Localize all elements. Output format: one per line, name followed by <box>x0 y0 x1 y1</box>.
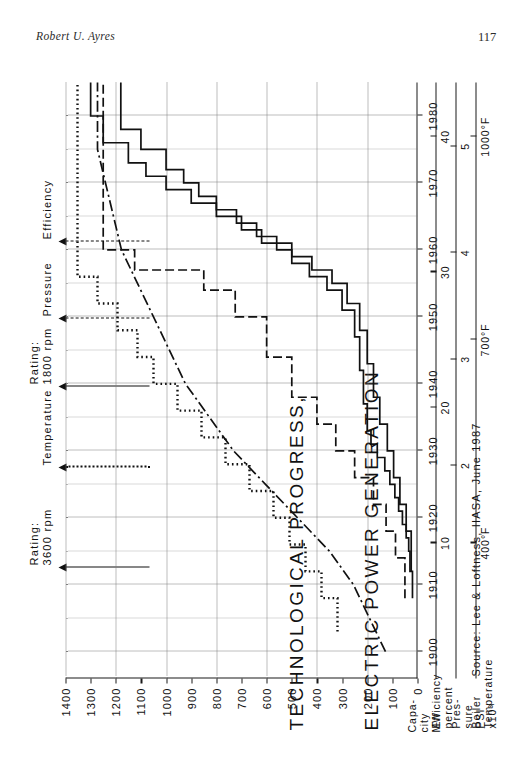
temperature-axis-line <box>476 83 477 679</box>
capacity-tick-900 <box>191 679 192 684</box>
x-tick-1930 <box>418 450 423 451</box>
x-tick-1960 <box>418 249 423 250</box>
curve-efficiency <box>98 83 386 652</box>
capacity-tick-label-1400: 1400 <box>60 688 72 717</box>
capacity-tick-label-1300: 1300 <box>85 688 97 717</box>
x-tick-1970 <box>418 182 423 183</box>
efficiency-tick-label-20: 20 <box>439 401 451 415</box>
figure-rotated-chart: TECHNOLOGICAL PROGRESS, ELECTRIC POWER G… <box>38 39 493 739</box>
x-tick-1950 <box>418 316 423 317</box>
capacity-tick-label-100: 100 <box>386 688 398 710</box>
pressure-tick-label-4: 4 <box>459 249 471 256</box>
pressure-axis-line <box>456 83 457 679</box>
efficiency-tick-label-10: 10 <box>439 536 451 550</box>
efficiency-tick-10 <box>431 542 437 543</box>
x-tick-1910 <box>418 584 423 585</box>
temperature-tick-1000°F <box>471 136 477 137</box>
temperature-tick-label-1000°F: 1000°F <box>479 117 491 157</box>
capacity-tick-300 <box>342 679 343 684</box>
pressure-tick-label-3: 3 <box>459 356 471 363</box>
capacity-tick-400 <box>317 679 318 684</box>
efficiency-tick-40 <box>431 136 437 137</box>
capacity-tick-0 <box>418 679 419 684</box>
capacity-tick-500 <box>292 679 293 684</box>
efficiency-tick-label-40: 40 <box>439 130 451 144</box>
capacity-tick-200 <box>367 679 368 684</box>
x-tick-1920 <box>418 517 423 518</box>
capacity-tick-label-700: 700 <box>236 688 248 710</box>
legend-label-5: Efficiency <box>41 180 54 240</box>
legend-label-3: Rating: 1800 rpm <box>28 328 54 385</box>
efficiency-axis-line <box>436 83 437 679</box>
legend-label-4: Pressure <box>41 262 54 316</box>
pressure-tick-5 <box>451 145 457 146</box>
capacity-tick-1100 <box>141 679 142 684</box>
capacity-tick-700 <box>242 679 243 684</box>
capacity-tick-label-1000: 1000 <box>160 688 172 717</box>
capacity-tick-label-900: 900 <box>185 688 197 710</box>
x-tick-1940 <box>418 383 423 384</box>
efficiency-tick-label-30: 30 <box>439 265 451 279</box>
capacity-tick-label-0: 0 <box>412 688 424 695</box>
efficiency-tick-30 <box>431 271 437 272</box>
capacity-tick-1300 <box>91 679 92 684</box>
pressure-tick-label-2: 2 <box>459 462 471 469</box>
x-tick-1980 <box>418 115 423 116</box>
capacity-tick-label-1100: 1100 <box>135 688 147 716</box>
capacity-tick-label-300: 300 <box>336 688 348 710</box>
capacity-axis-title: Capa- city MW <box>406 699 442 733</box>
capacity-tick-1400 <box>66 679 67 684</box>
curve-temperature <box>78 83 338 632</box>
temperature-tick-label-400°F: 400°F <box>479 526 491 559</box>
plot-area: 190019101920193019401950196019701980 010… <box>66 83 418 679</box>
capacity-tick-1000 <box>166 679 167 684</box>
capacity-tick-800 <box>216 679 217 684</box>
pressure-tick-3 <box>451 358 457 359</box>
capacity-tick-label-400: 400 <box>311 688 323 710</box>
temperature-tick-700°F <box>471 339 477 340</box>
capacity-tick-600 <box>267 679 268 684</box>
capacity-tick-label-200: 200 <box>361 688 373 710</box>
legend-label-2: Temperature <box>41 389 54 465</box>
capacity-tick-label-800: 800 <box>210 688 222 710</box>
temperature-tick-400°F <box>471 542 477 543</box>
capacity-tick-100 <box>392 679 393 684</box>
efficiency-tick-20 <box>431 406 437 407</box>
curve-rating-1800-rpm <box>91 83 412 572</box>
capacity-tick-label-1200: 1200 <box>110 688 122 717</box>
pressure-tick-4 <box>451 252 457 253</box>
pressure-tick-2 <box>451 464 457 465</box>
capacity-tick-1200 <box>116 679 117 684</box>
legend-label-1: Rating: 3600 rpm <box>28 509 54 566</box>
pressure-tick-label-5: 5 <box>459 143 471 150</box>
temperature-axis-title: Boiler Temperature <box>470 659 494 729</box>
temperature-tick-label-700°F: 700°F <box>479 323 491 356</box>
capacity-tick-label-600: 600 <box>261 688 273 710</box>
data-curves <box>66 83 418 679</box>
capacity-tick-label-500: 500 <box>286 688 298 710</box>
x-tick-1900 <box>418 651 423 652</box>
